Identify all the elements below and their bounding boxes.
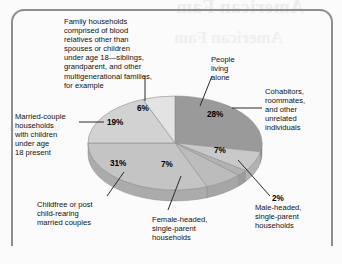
callout-label-female-headed: Female-headed, single-parent households bbox=[152, 215, 214, 242]
callout-label-cohabitors: Cohabitors, roommates, and other unrelat… bbox=[265, 87, 335, 132]
callout-label-married-couple: Married-couple households with children … bbox=[15, 112, 77, 157]
figure-page: American Fam American Fam households Fam… bbox=[0, 0, 342, 264]
pie-value-married-couple: 19% bbox=[107, 118, 123, 127]
callout-label-childfree: Childfree or post child-rearing married … bbox=[37, 200, 115, 227]
pie-chart-svg bbox=[84, 86, 274, 206]
callout-label-family-households: Family households comprised of blood rel… bbox=[64, 17, 160, 90]
pie-value-female-headed: 7% bbox=[161, 160, 173, 169]
pie-value-cohabitors: 7% bbox=[214, 146, 226, 155]
callout-label-male-headed: Male-headed, single-parent households bbox=[255, 203, 321, 230]
pie-chart bbox=[84, 86, 274, 206]
pie-top-faces bbox=[88, 96, 262, 190]
pie-value-male-headed: 2% bbox=[272, 194, 284, 203]
pie-value-childfree: 31% bbox=[110, 159, 126, 168]
pie-value-family-households: 6% bbox=[137, 104, 149, 113]
pie-value-people-living-alone: 28% bbox=[207, 110, 223, 119]
callout-label-people-living-alone: People living alone bbox=[211, 55, 251, 82]
figure-border-bottom-mask bbox=[0, 246, 342, 264]
pie-slice-1 bbox=[175, 96, 262, 152]
